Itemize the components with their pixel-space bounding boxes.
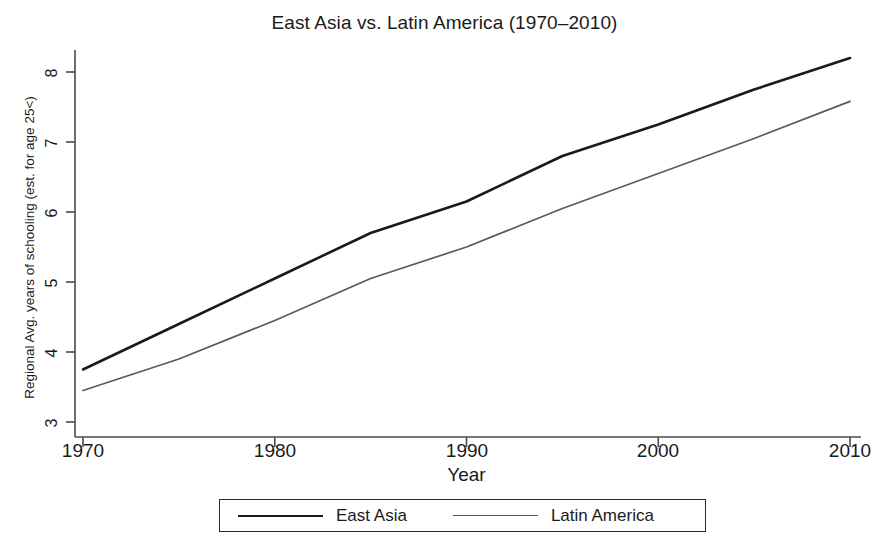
legend-line-icon-latin-america bbox=[453, 515, 538, 516]
legend-item-east-asia: East Asia bbox=[238, 506, 407, 526]
plot-area bbox=[0, 0, 889, 554]
series-lines bbox=[83, 58, 850, 391]
legend-item-latin-america: Latin America bbox=[453, 506, 654, 526]
chart-legend: East Asia Latin America bbox=[219, 499, 706, 532]
chart-figure: East Asia vs. Latin America (1970–2010) … bbox=[0, 0, 889, 554]
series-line-latin-america bbox=[83, 101, 850, 390]
series-line-east-asia bbox=[83, 58, 850, 370]
legend-line-icon-east-asia bbox=[238, 515, 323, 517]
legend-label-latin-america: Latin America bbox=[551, 506, 654, 526]
legend-label-east-asia: East Asia bbox=[336, 506, 407, 526]
y-tick-marks bbox=[66, 72, 75, 422]
x-tick-marks bbox=[83, 437, 850, 447]
